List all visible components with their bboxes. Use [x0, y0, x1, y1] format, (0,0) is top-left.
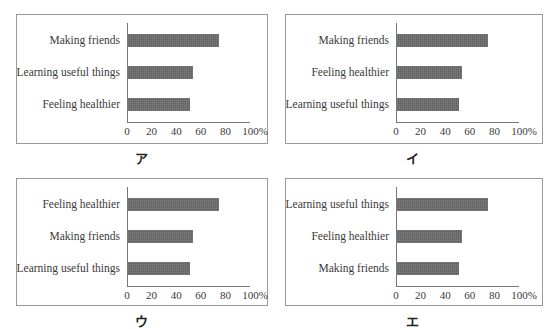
- panel-label: ウ: [135, 311, 148, 329]
- panel-label: イ: [406, 148, 419, 167]
- x-tick-label: 40: [171, 125, 182, 137]
- bar: [397, 66, 462, 79]
- category-label: Making friends: [49, 34, 120, 47]
- bar: [397, 230, 462, 243]
- x-tick-label: 0: [393, 125, 399, 137]
- x-tick-label: 20: [146, 289, 157, 301]
- bar: [397, 98, 459, 111]
- category-label: Feeling healthier: [311, 66, 389, 79]
- category-label: Making friends: [318, 34, 389, 47]
- bar: [397, 198, 488, 211]
- panel-label: エ: [406, 311, 419, 329]
- x-axis-line: [127, 122, 250, 123]
- x-tick-label: 60: [464, 125, 475, 137]
- x-axis-line: [396, 122, 519, 123]
- x-tick-label: 60: [464, 289, 475, 301]
- x-tick-label: 0: [124, 289, 130, 301]
- category-label: Feeling healthier: [42, 198, 120, 211]
- category-label: Making friends: [318, 262, 389, 275]
- category-label: Learning useful things: [17, 66, 120, 79]
- category-label: Learning useful things: [17, 262, 120, 275]
- x-tick-label: 20: [415, 125, 426, 137]
- x-tick-label: 20: [146, 125, 157, 137]
- x-tick-label: 80: [489, 125, 500, 137]
- bar: [128, 262, 190, 275]
- chart-panel: Making friendsLearning useful thingsFeel…: [16, 14, 268, 144]
- x-tick-label: 40: [440, 125, 451, 137]
- x-tick-label: 0: [393, 289, 399, 301]
- bar: [397, 262, 459, 275]
- x-tick-label: 80: [489, 289, 500, 301]
- bar: [128, 34, 219, 47]
- x-tick-label: 60: [195, 289, 206, 301]
- bar: [397, 34, 488, 47]
- x-tick-label: 80: [220, 289, 231, 301]
- category-label: Making friends: [49, 230, 120, 243]
- x-tick-label: 80: [220, 125, 231, 137]
- bar: [128, 98, 190, 111]
- bar: [128, 66, 193, 79]
- x-axis-line: [127, 286, 250, 287]
- panel-label: ア: [135, 148, 148, 167]
- x-tick-label: 40: [171, 289, 182, 301]
- category-label: Learning useful things: [286, 98, 389, 111]
- x-axis-line: [396, 286, 519, 287]
- x-tick-label: 100%: [511, 289, 537, 301]
- x-tick-label: 60: [195, 125, 206, 137]
- category-label: Feeling healthier: [42, 98, 120, 111]
- chart-panel: Feeling healthierMaking friendsLearning …: [16, 178, 268, 306]
- category-label: Learning useful things: [286, 198, 389, 211]
- x-tick-label: 40: [440, 289, 451, 301]
- chart-panel: Making friendsFeeling healthierLearning …: [285, 14, 543, 144]
- x-tick-label: 100%: [511, 125, 537, 137]
- bar: [128, 198, 219, 211]
- category-label: Feeling healthier: [311, 230, 389, 243]
- bar: [128, 230, 193, 243]
- chart-panel: Learning useful thingsFeeling healthierM…: [285, 178, 543, 306]
- x-tick-label: 20: [415, 289, 426, 301]
- x-tick-label: 0: [124, 125, 130, 137]
- x-tick-label: 100%: [242, 289, 268, 301]
- x-tick-label: 100%: [242, 125, 268, 137]
